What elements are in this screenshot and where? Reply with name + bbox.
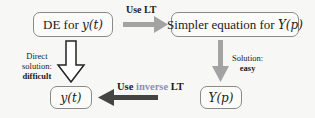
- simpler-node-math: Y(p): [278, 18, 303, 32]
- simpler-node-text: Simpler equation for: [167, 17, 275, 33]
- use-lt-label: Use LT: [126, 4, 156, 15]
- inverse-prefix: Use: [117, 81, 136, 92]
- inverse-accent: inverse: [136, 81, 168, 92]
- de-node-math: y(t): [82, 18, 103, 32]
- de-node: DE for y(t): [33, 12, 113, 37]
- use-lt-arrow: [123, 16, 168, 33]
- yp-node: Y(p): [200, 86, 242, 109]
- solution-easy-line1: Solution:: [232, 53, 263, 63]
- de-node-text: DE for: [43, 17, 79, 33]
- direct-line2: solution:: [22, 61, 52, 71]
- direct-line3: difficult: [22, 71, 52, 81]
- solution-easy-label: Solution: easy: [232, 53, 263, 73]
- direct-line1: Direct: [22, 51, 52, 61]
- yt-node: y(t): [50, 86, 92, 109]
- yt-node-math: y(t): [61, 91, 82, 105]
- direct-solution-arrow: [58, 41, 84, 82]
- direct-solution-label: Direct solution: difficult: [22, 51, 52, 81]
- solution-easy-line2: easy: [232, 63, 263, 73]
- solution-easy-arrow: [212, 40, 229, 82]
- inverse-lt-label: Use inverse LT: [117, 81, 184, 92]
- simpler-equation-node: Simpler equation for Y(p): [171, 12, 299, 37]
- inverse-suffix: LT: [168, 81, 184, 92]
- yp-node-math: Y(p): [209, 91, 234, 105]
